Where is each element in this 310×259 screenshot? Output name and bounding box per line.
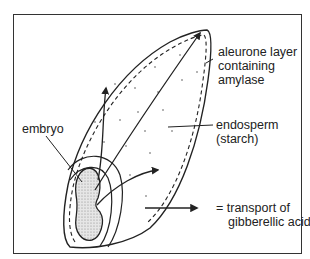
legend-label: = transport of gibberellic acid [216,201,310,229]
transport-arrow-1 [98,88,106,180]
label-aleurone: aleurone layer containing amylase [218,45,297,87]
label-endosperm: endosperm (starch) [216,118,279,146]
label-line: aleurone layer [218,45,297,59]
label-line: endosperm [216,118,279,132]
label-line: (starch) [216,132,279,146]
label-line: containing [218,59,297,73]
label-line: gibberellic acid [216,215,310,229]
label-embryo: embryo [22,122,64,136]
label-line: amylase [218,73,297,87]
starch-dots [94,54,198,197]
label-line: = transport of [216,201,310,215]
